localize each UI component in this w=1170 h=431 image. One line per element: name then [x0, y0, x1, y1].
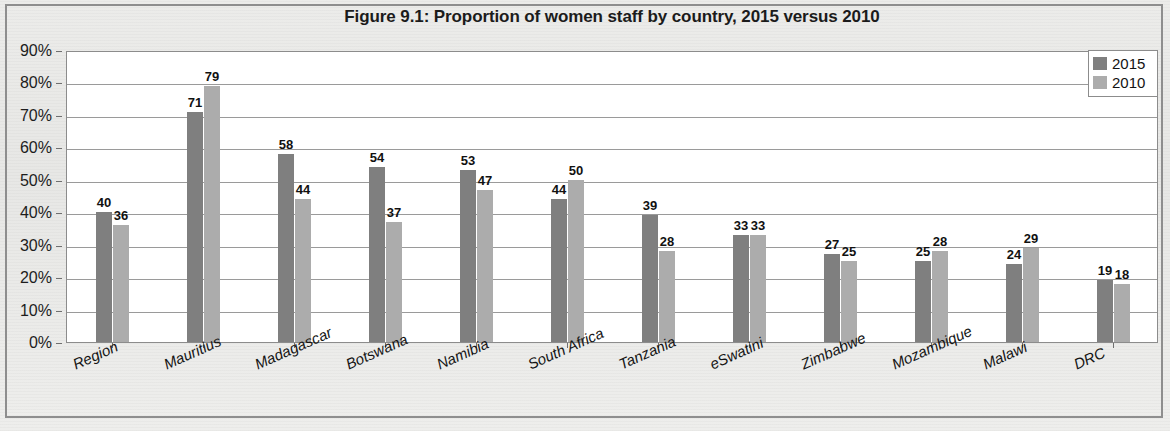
- bar-value-label: 54: [370, 150, 384, 165]
- y-tick-mark: [56, 246, 62, 247]
- bar-value-label: 37: [387, 205, 401, 220]
- y-tick-label: 10%: [20, 302, 52, 320]
- y-tick-mark: [56, 311, 62, 312]
- bar-2010: [659, 251, 675, 342]
- x-tick-label: Malawi: [980, 338, 1030, 373]
- bar-group: 3333: [733, 52, 766, 342]
- y-tick-mark: [56, 116, 62, 117]
- bar-2015: [369, 167, 385, 342]
- y-tick-mark: [56, 51, 62, 52]
- bar-2010: [386, 222, 402, 342]
- bar-2015: [551, 199, 567, 342]
- bar-value-label: 29: [1024, 231, 1038, 246]
- bars-layer: 4036717958445437534744503928333327252528…: [67, 52, 1157, 342]
- legend-swatch-icon: [1093, 76, 1107, 89]
- bar-value-label: 53: [461, 153, 475, 168]
- chart-title: Figure 9.1: Proportion of women staff by…: [66, 7, 1158, 27]
- bar-2015: [460, 170, 476, 342]
- bar-2015: [915, 261, 931, 342]
- bar-2010: [113, 225, 129, 342]
- plot-area: 4036717958445437534744503928333327252528…: [66, 51, 1158, 343]
- bar-group: 2429: [1006, 52, 1039, 342]
- bar-2015: [733, 235, 749, 342]
- y-tick-label: 30%: [20, 237, 52, 255]
- y-tick-mark: [56, 213, 62, 214]
- bar-2010: [568, 180, 584, 342]
- y-tick-label: 20%: [20, 269, 52, 287]
- bar-value-label: 33: [751, 218, 765, 233]
- y-tick-label: 50%: [20, 172, 52, 190]
- bar-value-label: 33: [734, 218, 748, 233]
- legend-item: 2010: [1093, 73, 1153, 92]
- bar-value-label: 58: [279, 137, 293, 152]
- x-tick-label: DRC: [1071, 344, 1108, 373]
- bar-value-label: 24: [1007, 247, 1021, 262]
- y-tick-label: 90%: [20, 42, 52, 60]
- bar-2015: [187, 112, 203, 342]
- bar-group: 5437: [369, 52, 402, 342]
- y-tick-label: 80%: [20, 74, 52, 92]
- y-tick-label: 70%: [20, 107, 52, 125]
- bar-value-label: 28: [933, 234, 947, 249]
- bar-2015: [1006, 264, 1022, 342]
- y-tick-label: 60%: [20, 139, 52, 157]
- bar-2010: [841, 261, 857, 342]
- bar-value-label: 39: [643, 198, 657, 213]
- bar-2010: [932, 251, 948, 342]
- bar-2015: [278, 154, 294, 342]
- bar-2015: [642, 215, 658, 342]
- legend-swatch-icon: [1093, 57, 1107, 70]
- legend-label: 2015: [1112, 56, 1145, 71]
- bar-value-label: 40: [97, 195, 111, 210]
- y-tick-mark: [56, 181, 62, 182]
- bar-2010: [1114, 284, 1130, 342]
- bar-2010: [295, 199, 311, 342]
- bar-group: 2528: [915, 52, 948, 342]
- bar-value-label: 44: [296, 182, 310, 197]
- y-tick-mark: [56, 278, 62, 279]
- y-tick-mark: [56, 343, 62, 344]
- chart-screenshot: Figure 9.1: Proportion of women staff by…: [0, 0, 1170, 431]
- bar-group: 5347: [460, 52, 493, 342]
- bar-2015: [824, 254, 840, 342]
- y-tick-label: 0%: [29, 334, 52, 352]
- x-axis: RegionMauritiusMadagascarBotswanaNamibia…: [66, 343, 1158, 423]
- bar-value-label: 25: [842, 244, 856, 259]
- bar-group: 7179: [187, 52, 220, 342]
- x-tick-label: Region: [70, 338, 120, 373]
- bar-2015: [96, 212, 112, 342]
- bar-group: 2725: [824, 52, 857, 342]
- bar-value-label: 47: [478, 173, 492, 188]
- bar-2010: [477, 190, 493, 342]
- bar-value-label: 36: [114, 208, 128, 223]
- legend-item: 2015: [1093, 54, 1153, 73]
- y-tick-label: 40%: [20, 204, 52, 222]
- bar-group: 3928: [642, 52, 675, 342]
- bar-group: 5844: [278, 52, 311, 342]
- x-tick-mark: [1113, 343, 1114, 348]
- bar-2010: [750, 235, 766, 342]
- bar-2015: [1097, 280, 1113, 342]
- chart-legend: 20152010: [1088, 50, 1158, 97]
- bar-value-label: 27: [825, 237, 839, 252]
- bar-group: 4036: [96, 52, 129, 342]
- bar-2010: [204, 86, 220, 342]
- bar-2010: [1023, 248, 1039, 342]
- bar-value-label: 44: [552, 182, 566, 197]
- bar-value-label: 18: [1115, 267, 1129, 282]
- bar-value-label: 79: [205, 69, 219, 84]
- bar-value-label: 71: [188, 95, 202, 110]
- y-tick-mark: [56, 148, 62, 149]
- y-tick-mark: [56, 83, 62, 84]
- legend-label: 2010: [1112, 75, 1145, 90]
- bar-value-label: 28: [660, 234, 674, 249]
- bar-value-label: 25: [916, 244, 930, 259]
- y-axis: 90%80%70%60%50%40%30%20%10%0%: [0, 51, 62, 343]
- bar-value-label: 19: [1098, 263, 1112, 278]
- bar-group: 4450: [551, 52, 584, 342]
- bar-value-label: 50: [569, 163, 583, 178]
